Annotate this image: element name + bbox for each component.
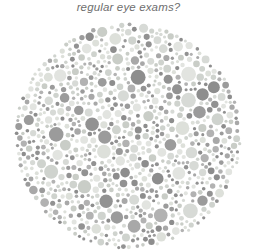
plate-dot bbox=[154, 88, 160, 94]
plate-dot bbox=[176, 190, 179, 193]
plate-dot bbox=[221, 175, 225, 179]
plate-dot bbox=[138, 35, 142, 39]
plate-dot bbox=[201, 177, 204, 180]
plate-dot bbox=[102, 189, 106, 193]
plate-dot bbox=[204, 78, 207, 81]
plate-dot bbox=[160, 119, 164, 123]
plate-dot bbox=[40, 130, 44, 134]
plate-dot bbox=[93, 132, 96, 135]
plate-dot bbox=[93, 175, 100, 182]
plate-dot bbox=[189, 161, 198, 170]
plate-dot bbox=[128, 37, 136, 45]
plate-dot bbox=[60, 117, 64, 121]
plate-dot bbox=[146, 141, 152, 147]
plate-dot bbox=[107, 61, 110, 64]
plate-dot bbox=[154, 68, 158, 72]
plate-dot bbox=[184, 191, 188, 195]
plate-dot bbox=[106, 219, 110, 223]
plate-dot bbox=[97, 92, 103, 98]
plate-dot bbox=[149, 188, 154, 193]
plate-dot bbox=[70, 127, 74, 131]
plate-dot bbox=[146, 222, 153, 229]
plate-dot bbox=[151, 94, 154, 97]
plate-dot bbox=[100, 44, 103, 47]
plate-dot bbox=[89, 75, 94, 80]
plate-dot bbox=[53, 123, 56, 126]
plate-dot bbox=[147, 68, 153, 74]
plate-dot bbox=[45, 116, 52, 123]
plate-dot bbox=[63, 210, 66, 213]
plate-dot bbox=[55, 102, 59, 106]
plate-dot bbox=[171, 237, 174, 240]
plate-dot bbox=[90, 82, 94, 86]
plate-dot bbox=[156, 242, 159, 245]
plate-dot bbox=[200, 213, 203, 216]
plate-dot bbox=[116, 193, 121, 198]
plate-dot bbox=[197, 195, 207, 205]
plate-dot bbox=[119, 48, 122, 51]
plate-dot bbox=[67, 76, 72, 81]
plate-dot bbox=[119, 23, 124, 28]
plate-dot bbox=[223, 164, 226, 167]
plate-dot bbox=[108, 239, 111, 242]
plate-dot bbox=[171, 61, 175, 65]
plate-dot bbox=[176, 60, 179, 63]
plate-dot bbox=[98, 49, 101, 52]
plate-dot bbox=[85, 33, 93, 41]
plate-dot bbox=[208, 177, 212, 181]
plate-dot bbox=[139, 214, 143, 218]
plate-dot bbox=[154, 36, 162, 44]
plate-dot bbox=[217, 108, 221, 112]
plate-dot bbox=[60, 93, 70, 103]
plate-dot bbox=[206, 115, 210, 119]
plate-dot bbox=[208, 167, 215, 174]
plate-dot bbox=[188, 177, 191, 180]
plate-dot bbox=[166, 92, 173, 99]
plate-dot bbox=[193, 106, 206, 119]
plate-dot bbox=[133, 234, 136, 237]
plate-dot bbox=[56, 185, 60, 189]
plate-dot bbox=[129, 211, 132, 214]
plate-dot bbox=[131, 238, 135, 242]
plate-dot bbox=[38, 68, 41, 71]
plate-dot bbox=[69, 181, 77, 189]
plate-dot bbox=[75, 154, 78, 157]
plate-dot bbox=[107, 168, 110, 171]
plate-dot bbox=[147, 58, 154, 65]
plate-dot bbox=[31, 154, 34, 157]
plate-dot bbox=[111, 182, 114, 185]
plate-dot bbox=[184, 39, 187, 42]
plate-dot bbox=[95, 193, 100, 198]
plate-dot bbox=[91, 203, 95, 207]
plate-dot bbox=[150, 229, 154, 233]
plate-dot bbox=[35, 123, 39, 127]
plate-dot bbox=[61, 55, 65, 59]
plate-dot bbox=[184, 165, 188, 169]
plate-dot bbox=[135, 187, 139, 191]
plate-dot bbox=[129, 195, 139, 205]
plate-dot bbox=[105, 234, 108, 237]
plate-dot bbox=[90, 89, 93, 92]
plate-dot bbox=[155, 106, 158, 109]
plate-dot bbox=[109, 188, 114, 193]
plate-dot bbox=[42, 136, 45, 139]
plate-dot bbox=[78, 223, 85, 230]
plate-dot bbox=[186, 181, 190, 185]
plate-dot bbox=[113, 88, 117, 92]
plate-dot bbox=[226, 90, 230, 94]
plate-dot bbox=[131, 189, 135, 193]
plate-dot bbox=[194, 131, 199, 136]
plate-dot bbox=[131, 56, 139, 64]
plate-dot bbox=[100, 232, 104, 236]
plate-dot bbox=[29, 177, 34, 182]
plate-dot bbox=[89, 173, 92, 176]
plate-dot bbox=[66, 82, 69, 85]
plate-dot bbox=[227, 147, 231, 151]
plate-dot bbox=[174, 101, 180, 107]
ishihara-plate-canvas bbox=[0, 0, 257, 252]
plate-dot bbox=[141, 151, 145, 155]
plate-dot bbox=[30, 103, 37, 110]
plate-dot bbox=[178, 81, 181, 84]
plate-dot bbox=[45, 97, 53, 105]
plate-dot bbox=[86, 73, 89, 76]
